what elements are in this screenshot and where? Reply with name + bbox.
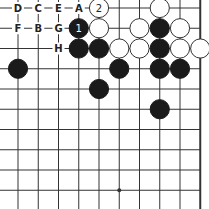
black-stone-circle: [69, 39, 88, 58]
white-stone-circle: [130, 39, 149, 58]
black-stone-circle: [150, 19, 169, 38]
black-stone: [8, 59, 27, 78]
point-label: C: [32, 2, 44, 14]
go-board: DCEAFBGH 21: [0, 0, 209, 209]
black-stone: 1: [69, 19, 88, 38]
move-number: 1: [76, 23, 82, 34]
black-stone: [150, 39, 169, 58]
black-stone: [150, 59, 169, 78]
black-stone: [150, 100, 169, 119]
point-label: A: [73, 2, 85, 14]
black-stone-circle: [150, 100, 169, 119]
white-stone: [89, 19, 108, 38]
black-stone-circle: [89, 39, 108, 58]
point-label: E: [53, 2, 65, 14]
white-stone: [130, 39, 149, 58]
white-stone-circle: [89, 19, 108, 38]
label-text: A: [75, 3, 83, 14]
white-stone: 2: [89, 0, 108, 18]
white-stone-circle: [130, 19, 149, 38]
white-stone: [191, 39, 209, 58]
white-stone-circle: [170, 39, 189, 58]
star-point: [117, 188, 121, 192]
black-stone: [150, 19, 169, 38]
black-stone: [89, 39, 108, 58]
label-text: B: [34, 23, 42, 34]
label-text: D: [14, 3, 22, 14]
black-stone-circle: [110, 59, 129, 78]
point-label: G: [53, 22, 65, 34]
white-stone-circle: [110, 39, 129, 58]
white-stone-circle: [170, 19, 189, 38]
label-text: E: [55, 3, 62, 14]
star-points: [117, 188, 121, 192]
black-stone: [89, 79, 108, 98]
black-stone-circle: [170, 59, 189, 78]
move-number: 2: [96, 3, 102, 14]
label-text: F: [15, 23, 22, 34]
point-label: B: [32, 22, 44, 34]
point-label: H: [53, 43, 65, 55]
white-stone: [130, 19, 149, 38]
label-text: H: [54, 43, 62, 54]
point-label: F: [12, 22, 24, 34]
black-stone-circle: [8, 59, 27, 78]
label-text: C: [35, 3, 42, 14]
white-stone: [150, 0, 169, 18]
black-stone-circle: [150, 39, 169, 58]
white-stone-circle: [191, 39, 209, 58]
black-stone: [110, 59, 129, 78]
point-label: D: [12, 2, 24, 14]
black-stone-circle: [89, 79, 108, 98]
black-stone: [170, 59, 189, 78]
white-stone-circle: [150, 0, 169, 18]
white-stone: [110, 39, 129, 58]
white-stone: [170, 39, 189, 58]
label-text: G: [54, 23, 62, 34]
white-stone: [170, 19, 189, 38]
black-stone: [69, 39, 88, 58]
black-stone-circle: [150, 59, 169, 78]
